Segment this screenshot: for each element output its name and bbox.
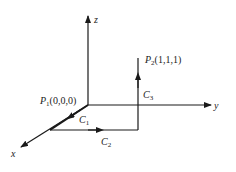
path-c3-label: C3: [143, 89, 154, 102]
x-axis-label: x: [10, 148, 16, 159]
path-c2-label: C2: [101, 136, 112, 149]
path-c1-label: C1: [79, 114, 90, 127]
point-p1-label: P1(0,0,0): [39, 95, 76, 108]
point-p2-label: P2(1,1,1): [144, 54, 181, 67]
y-axis-label: y: [213, 100, 219, 111]
coordinate-diagram: z y x P1(0,0,0) P2(1,1,1) C1 C2 C3: [0, 0, 236, 172]
z-axis-label: z: [93, 14, 98, 25]
